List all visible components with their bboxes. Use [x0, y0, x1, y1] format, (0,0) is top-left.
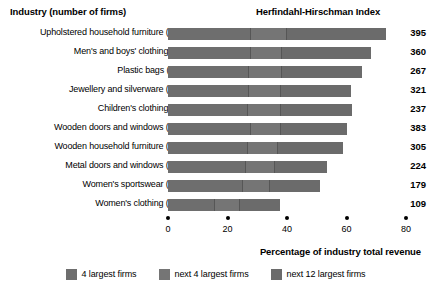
x-axis-tick: 80	[400, 216, 412, 234]
bar-segment-1	[168, 47, 250, 59]
stacked-bar	[168, 104, 352, 116]
legend: 4 largest firmsnext 4 largest firmsnext …	[0, 266, 431, 282]
bar-segment-3	[277, 142, 343, 154]
stacked-bar	[168, 161, 327, 173]
bar-segment-2	[247, 104, 280, 116]
chart-row: Upholstered household furniture (122)395	[0, 25, 431, 44]
hhi-value: 395	[390, 27, 426, 38]
bar-segment-3	[269, 180, 320, 192]
tick-label: 20	[222, 224, 234, 234]
hhi-value: 179	[390, 179, 426, 190]
legend-label: next 4 largest firms	[175, 269, 249, 279]
bar-segment-1	[168, 66, 248, 78]
x-axis-tick: 20	[222, 216, 234, 234]
stacked-bar	[168, 142, 343, 154]
tick-label: 0	[162, 224, 174, 234]
bar-segment-1	[168, 199, 214, 211]
tick-dot-icon	[285, 216, 289, 220]
tick-dot-icon	[404, 216, 408, 220]
hhi-value: 305	[390, 141, 426, 152]
legend-swatch	[159, 269, 170, 280]
chart-row: Plastic bags (112)267	[0, 63, 431, 82]
bar-segment-2	[248, 85, 279, 97]
hhi-value: 321	[390, 84, 426, 95]
tick-label: 80	[400, 224, 412, 234]
bar-segment-2	[250, 123, 280, 135]
x-axis-tick: 0	[162, 216, 174, 234]
category-label: Wooden household furniture (440)	[54, 141, 186, 151]
chart-row: Children's clothing (96)237	[0, 101, 431, 120]
category-label: Upholstered household furniture (122)	[40, 27, 186, 37]
bar-segment-3	[281, 47, 371, 59]
stacked-bar	[168, 199, 280, 211]
hhi-value: 267	[390, 65, 426, 76]
chart-row: Metal doors and windows (287)224	[0, 158, 431, 177]
bar-segment-1	[168, 161, 245, 173]
bar-segment-1	[168, 180, 242, 192]
legend-item: next 4 largest firms	[159, 269, 249, 280]
bar-segment-2	[245, 161, 273, 173]
tick-dot-icon	[345, 216, 349, 220]
chart-row: Men's and boys' clothing (97)360	[0, 44, 431, 63]
bar-segment-3	[239, 199, 280, 211]
stacked-bar	[168, 180, 320, 192]
hhi-value: 360	[390, 46, 426, 57]
bar-segment-3	[281, 66, 362, 78]
x-axis: 020406080	[0, 216, 431, 246]
bar-segment-3	[280, 85, 351, 97]
bar-segment-1	[168, 28, 250, 40]
hhi-value: 109	[390, 198, 426, 209]
chart-row: Women's sportswear (191)179	[0, 177, 431, 196]
hhi-concentration-chart: Industry (number of firms) Herfindahl-Hi…	[0, 0, 431, 294]
hhi-value: 224	[390, 160, 426, 171]
legend-item: 4 largest firms	[66, 269, 137, 280]
legend-swatch	[66, 269, 77, 280]
x-axis-tick: 40	[281, 216, 293, 234]
stacked-bar	[168, 85, 351, 97]
stacked-bar	[168, 66, 362, 78]
bar-segment-2	[242, 180, 269, 192]
tick-label: 40	[281, 224, 293, 234]
bar-segment-2	[250, 47, 281, 59]
bar-segment-1	[168, 104, 247, 116]
chart-row: Women's clothing (410)109	[0, 196, 431, 215]
x-axis-tick: 60	[341, 216, 353, 234]
hhi-value: 383	[390, 122, 426, 133]
legend-label: next 12 largest firms	[287, 269, 366, 279]
bar-segment-3	[286, 28, 387, 40]
tick-dot-icon	[226, 216, 230, 220]
bar-segment-3	[280, 123, 348, 135]
legend-label: 4 largest firms	[82, 269, 137, 279]
chart-row: Wooden doors and windows (282)383	[0, 120, 431, 139]
stacked-bar	[168, 123, 347, 135]
x-axis-title: Percentage of industry total revenue	[0, 246, 421, 257]
category-label: Wooden doors and windows (282)	[54, 122, 186, 132]
tick-label: 60	[341, 224, 353, 234]
bar-segment-3	[280, 104, 352, 116]
bar-segment-3	[274, 161, 328, 173]
bar-segment-1	[168, 142, 247, 154]
chart-row: Wooden household furniture (440)305	[0, 139, 431, 158]
bar-segment-2	[250, 28, 286, 40]
chart-row: Jewellery and silverware (302)321	[0, 82, 431, 101]
bar-segment-1	[168, 123, 250, 135]
bar-segment-2	[214, 199, 239, 211]
bar-segment-1	[168, 85, 248, 97]
tick-dot-icon	[166, 216, 170, 220]
stacked-bar	[168, 47, 371, 59]
stacked-bar	[168, 28, 386, 40]
legend-swatch	[271, 269, 282, 280]
hhi-value: 237	[390, 103, 426, 114]
bar-segment-2	[247, 142, 277, 154]
bar-segment-2	[248, 66, 281, 78]
legend-item: next 12 largest firms	[271, 269, 366, 280]
